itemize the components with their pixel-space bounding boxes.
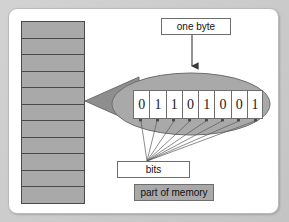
byte-bits-row: 0 1 1 0 1 0 0 1: [133, 90, 263, 119]
bit-cell-4: 1: [198, 90, 214, 119]
memory-cell: [22, 88, 84, 105]
one-byte-label: one byte: [161, 18, 231, 35]
bit-cell-3: 0: [182, 90, 198, 119]
memory-column: [21, 21, 85, 204]
memory-cell: [22, 55, 84, 72]
bit-cell-7: 1: [247, 90, 263, 119]
memory-cell: [22, 121, 84, 138]
diagram-card: 0 1 1 0 1 0 0 1 one byte bits part of me…: [8, 8, 279, 214]
bit-cell-2: 1: [166, 90, 182, 119]
bit-cell-6: 0: [231, 90, 247, 119]
bits-label: bits: [117, 161, 190, 178]
bit-cell-1: 1: [149, 90, 165, 119]
memory-cell: [22, 171, 84, 188]
memory-cell: [22, 39, 84, 56]
bit-cell-5: 0: [214, 90, 230, 119]
memory-cell: [22, 105, 84, 122]
bit-cell-0: 0: [133, 90, 149, 119]
memory-cell: [22, 187, 84, 203]
memory-cell: [22, 22, 84, 39]
memory-cell: [22, 72, 84, 89]
memory-cell: [22, 138, 84, 155]
memory-cell: [22, 154, 84, 171]
part-of-memory-label: part of memory: [134, 184, 214, 201]
figure-root: 0 1 1 0 1 0 0 1 one byte bits part of me…: [0, 0, 289, 222]
